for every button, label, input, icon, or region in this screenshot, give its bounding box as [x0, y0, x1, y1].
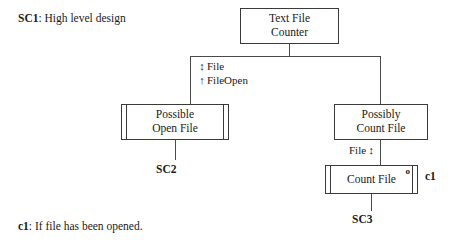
flow-label-fileopen: ↑FileOpen — [197, 74, 248, 86]
flow-text-file-right: File — [349, 144, 366, 156]
flow-text-fileopen: FileOpen — [207, 74, 248, 86]
box-text-file-counter-line2: Counter — [271, 26, 308, 40]
flow-arrow-fileopen: ↑ — [197, 74, 207, 86]
flow-label-file: ↕File — [197, 60, 224, 72]
tag-sc2: SC2 — [156, 163, 176, 175]
c1-footnote-text: If file has been opened. — [35, 220, 143, 232]
structure-chart: SC1: High level design Text File Counter… — [0, 0, 471, 248]
connector-root-stem — [289, 44, 290, 56]
sc1-id: SC1 — [18, 12, 38, 24]
c1-footnote: c1: If file has been opened. — [18, 220, 143, 233]
flow-arrow-file-right: ↕ — [366, 144, 376, 156]
box-text-file-counter-line1: Text File — [269, 12, 310, 26]
flow-label-file-right: File↕ — [349, 144, 376, 156]
box-count-file-o-marker: o — [406, 167, 411, 176]
box-possibly-count-file-line2: Count File — [357, 122, 406, 136]
box-text-file-counter: Text File Counter — [240, 8, 339, 44]
connector-bus — [190, 56, 380, 57]
tag-c1: c1 — [425, 170, 436, 182]
box-possibly-count-file: Possibly Count File — [334, 104, 428, 140]
c1-footnote-id: c1 — [18, 220, 29, 232]
connector-sc2-stem — [175, 140, 176, 160]
connector-right-drop — [380, 56, 381, 104]
box-possible-open-file-line2: Open File — [152, 122, 198, 136]
box-possibly-count-file-line1: Possibly — [362, 108, 401, 122]
box-possible-open-file-line1: Possible — [156, 108, 194, 122]
connector-countfile-stem — [380, 140, 381, 165]
box-possible-open-file: Possible Open File — [121, 104, 229, 140]
box-count-file-line1: Count File — [347, 173, 396, 187]
sc1-caption: SC1: High level design — [18, 12, 126, 25]
connector-left-drop — [190, 56, 191, 106]
connector-sc3-stem — [371, 194, 372, 211]
box-count-file: Count File o — [325, 165, 418, 194]
flow-arrow-file: ↕ — [197, 60, 207, 72]
flow-text-file: File — [207, 60, 224, 72]
sc1-text: High level design — [45, 12, 126, 24]
tag-sc3: SC3 — [352, 213, 372, 225]
